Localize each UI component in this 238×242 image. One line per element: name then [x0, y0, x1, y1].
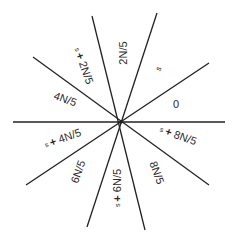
sector-label: s + 2N/5	[72, 46, 96, 86]
dividing-line	[26, 63, 209, 185]
sector-label: s	[154, 65, 164, 73]
sector-label: 8N/5	[147, 160, 166, 186]
sector-label: s + 8N/5	[158, 123, 198, 147]
sector-label: 6N/5	[68, 159, 87, 185]
sector-diagram: 2N/5s0s + 8N/58N/5s + 6N/56N/5s + 4N/54N…	[0, 0, 238, 242]
sector-label: 2N/5	[117, 41, 129, 64]
sector-label: 4N/5	[52, 89, 78, 108]
center-point	[119, 120, 123, 124]
sector-label: s + 6N/5	[111, 169, 123, 207]
sector-label: s + 4N/5	[43, 126, 83, 150]
sector-label: 0	[173, 98, 179, 110]
